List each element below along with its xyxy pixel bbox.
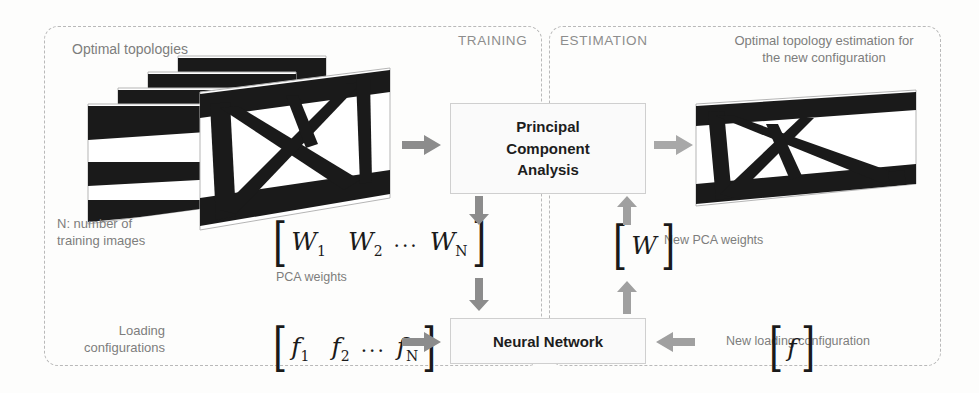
vector-item-f1: f1	[290, 332, 310, 364]
arrow-nn-to-newweights-icon	[616, 281, 638, 315]
bracket-close: ]	[801, 327, 815, 369]
arrow-pca-to-result-icon	[654, 134, 694, 156]
bracket-close: ]	[472, 222, 486, 264]
estimation-result-caption: Optimal topology estimation for the new …	[729, 32, 919, 66]
bracket-open: [	[613, 225, 627, 267]
arrow-weights-to-nn-icon	[468, 278, 490, 312]
estimated-topology-image	[692, 88, 924, 208]
new-loading-vector: [ f ]	[766, 327, 818, 369]
new-pca-weights-vector: [ W ]	[610, 225, 678, 267]
arrow-stack-to-pca-icon	[402, 134, 442, 156]
vector-ellipsis: ...	[384, 228, 429, 258]
vector-item-w2: W2	[347, 227, 384, 259]
arrow-newweights-to-pca-icon	[616, 196, 638, 226]
arrow-pca-to-weights-icon	[468, 196, 490, 226]
vector-item-f2: f2	[330, 332, 350, 364]
estimation-panel-label: ESTIMATION	[560, 33, 648, 48]
bracket-close: ]	[661, 225, 675, 267]
arrow-loading-to-nn-icon	[402, 331, 442, 353]
bracket-open: [	[273, 327, 287, 369]
loading-configurations-caption: Loading configurations	[55, 322, 165, 356]
neural-network-label: Neural Network	[493, 333, 603, 350]
vector-item-w: W	[630, 231, 658, 260]
vector-item-wn: WN	[429, 227, 469, 259]
pca-box[interactable]: Principal Component Analysis	[450, 103, 646, 194]
arrow-newloading-to-nn-icon	[656, 331, 696, 353]
pca-weights-vector: [ W1 W2 ... WN ]	[270, 222, 489, 264]
vector-item-w1: W1	[290, 227, 327, 259]
vector-ellipsis: ...	[351, 333, 396, 363]
optimal-topologies-stack	[60, 48, 400, 238]
diagram-canvas: TRAINING ESTIMATION	[0, 0, 979, 393]
pca-box-line2: Component	[506, 138, 589, 160]
vector-item-f: f	[786, 333, 797, 362]
bracket-open: [	[273, 222, 287, 264]
optimal-topologies-caption: Optimal topologies	[72, 40, 188, 58]
neural-network-box[interactable]: Neural Network	[450, 318, 646, 364]
training-panel-label: TRAINING	[458, 33, 527, 48]
new-pca-weights-caption: New PCA weights	[664, 232, 763, 249]
n-training-images-caption: N: number of training images	[57, 215, 177, 249]
bracket-open: [	[769, 327, 783, 369]
pca-box-line1: Principal	[506, 116, 589, 138]
topology-sheet-front	[200, 68, 390, 230]
pca-box-line3: Analysis	[506, 159, 589, 181]
